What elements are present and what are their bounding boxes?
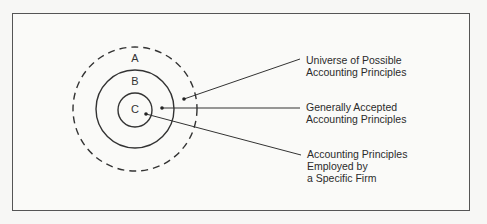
leader-line-c xyxy=(146,114,301,155)
callout-universe: Universe of Possible Accounting Principl… xyxy=(306,54,406,78)
callout-firm-line-1: Accounting Principles xyxy=(307,148,407,160)
dot-b xyxy=(160,106,164,110)
region-label-c: C xyxy=(131,103,139,115)
callout-universe-line-2: Accounting Principles xyxy=(306,66,406,78)
callout-universe-line-1: Universe of Possible xyxy=(306,54,406,66)
callout-gaap: Generally Accepted Accounting Principles xyxy=(306,101,406,125)
nested-circles-diagram xyxy=(0,0,487,224)
dot-c xyxy=(144,112,148,116)
leader-line-a xyxy=(184,59,300,99)
region-label-a: A xyxy=(131,52,138,64)
dot-a xyxy=(182,97,186,101)
callout-firm: Accounting Principles Employed by a Spec… xyxy=(307,148,407,184)
callout-firm-line-3: a Specific Firm xyxy=(307,172,407,184)
callout-gaap-line-2: Accounting Principles xyxy=(306,113,406,125)
callout-firm-line-2: Employed by xyxy=(307,160,407,172)
region-label-b: B xyxy=(131,75,138,87)
callout-gaap-line-1: Generally Accepted xyxy=(306,101,406,113)
